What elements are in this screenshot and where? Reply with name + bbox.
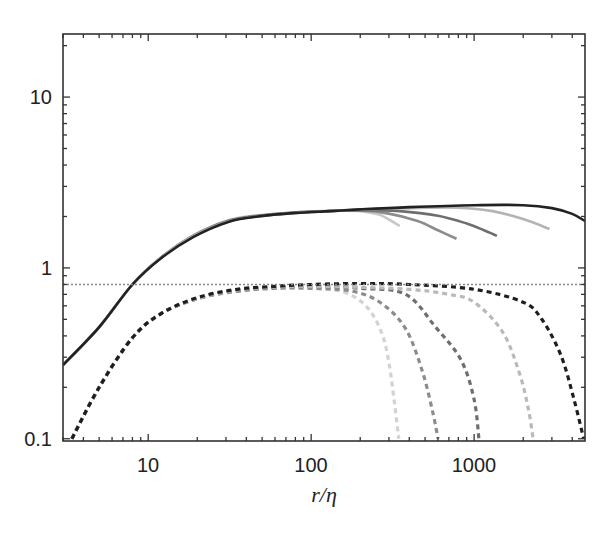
- y-tick-1: 1: [41, 257, 52, 279]
- plot-frame: [63, 34, 585, 441]
- x-tick-1000: 1000: [452, 454, 497, 476]
- x-tick-labels: 10 100 1000: [137, 454, 496, 476]
- y-tick-0.1: 0.1: [24, 428, 52, 450]
- series-solid-1: [63, 211, 400, 365]
- series-dashed-1: [72, 288, 399, 439]
- series-dashed-5: [72, 284, 584, 439]
- axis-ticks: [63, 34, 585, 441]
- plot-series: [63, 205, 585, 439]
- x-tick-10: 10: [137, 454, 159, 476]
- y-tick-labels: 0.1 1 10: [24, 86, 52, 450]
- series-dashed-4: [72, 286, 533, 438]
- x-axis-label: r/η: [311, 482, 337, 507]
- chart: 10 100 1000 0.1 1 10 r/η: [0, 0, 608, 536]
- x-tick-100: 100: [294, 454, 327, 476]
- series-solid-4: [63, 208, 550, 365]
- y-tick-10: 10: [30, 86, 52, 108]
- series-dashed-2: [72, 288, 438, 439]
